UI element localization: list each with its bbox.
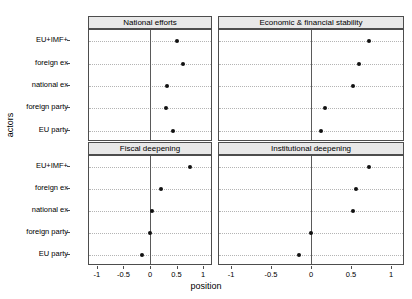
x-tick-mark [123, 266, 124, 269]
x-tick-label: -0.5 [259, 270, 283, 279]
data-point [357, 62, 361, 66]
y-tick-mark [67, 166, 70, 167]
y-tick-label: EU party [2, 250, 68, 258]
y-tick-mark [67, 130, 70, 131]
plot-area [88, 29, 212, 141]
x-tick-label: 1 [191, 270, 215, 279]
y-tick-label: foreign ex [2, 184, 68, 192]
panel-title: Fiscal deepening [120, 144, 180, 153]
x-tick-mark [150, 266, 151, 269]
data-point [175, 39, 179, 43]
x-tick-label: -0.5 [111, 270, 135, 279]
y-tick-label: EU party [2, 126, 68, 134]
data-point [297, 253, 301, 257]
y-tick-label: national ex [2, 81, 68, 89]
data-point [351, 209, 355, 213]
data-point [150, 209, 154, 213]
y-tick-mark [67, 63, 70, 64]
data-point [354, 187, 358, 191]
y-tick-label: EU+IMF+ [2, 36, 68, 44]
x-tick-label: -1 [219, 270, 243, 279]
panel-strip-header: National efforts [88, 16, 212, 29]
y-tick-label: foreign party [2, 228, 68, 236]
x-tick-mark [97, 266, 98, 269]
panel-strip-header: Institutional deepening [218, 142, 404, 155]
data-point [309, 231, 313, 235]
panel-title: Economic & financial stability [259, 18, 362, 27]
x-tick-mark [203, 266, 204, 269]
data-point [188, 165, 192, 169]
x-tick-label: 0.5 [339, 270, 363, 279]
x-tick-label: 0 [299, 270, 323, 279]
y-tick-mark [67, 232, 70, 233]
panel-strip-header: Fiscal deepening [88, 142, 212, 155]
x-tick-label: -1 [85, 270, 109, 279]
y-tick-label: EU+IMF+ [2, 162, 68, 170]
y-tick-mark [67, 40, 70, 41]
y-tick-label: foreign ex [2, 59, 68, 67]
zero-reference-line [311, 156, 312, 264]
y-tick-mark [67, 254, 70, 255]
facet-panel: Institutional deepening [218, 142, 404, 265]
y-tick-mark [67, 107, 70, 108]
plot-area [88, 155, 212, 265]
x-tick-mark [311, 266, 312, 269]
data-point [351, 84, 355, 88]
x-tick-mark [177, 266, 178, 269]
x-tick-mark [391, 266, 392, 269]
x-axis: -1-0.500.51 [88, 266, 212, 284]
zero-reference-line [311, 30, 312, 140]
x-tick-label: 1 [379, 270, 403, 279]
facet-panel: National efforts [88, 16, 212, 141]
facet-panel: Fiscal deepening [88, 142, 212, 265]
plot-area [218, 29, 404, 141]
faceted-dot-plot: actors position EU+IMF+foreign exnationa… [0, 0, 412, 299]
x-tick-label: 0.5 [165, 270, 189, 279]
data-point [159, 187, 163, 191]
data-point [319, 129, 323, 133]
facet-panel: Economic & financial stability [218, 16, 404, 141]
panel-title: Institutional deepening [271, 144, 351, 153]
data-point [148, 231, 152, 235]
panel-title: National efforts [123, 18, 177, 27]
x-tick-mark [231, 266, 232, 269]
x-tick-mark [271, 266, 272, 269]
data-point [140, 253, 144, 257]
plot-area [218, 155, 404, 265]
data-point [367, 165, 371, 169]
x-tick-mark [351, 266, 352, 269]
x-tick-label: 0 [138, 270, 162, 279]
zero-reference-line [150, 30, 151, 140]
data-point [165, 84, 169, 88]
x-axis: -1-0.500.51 [218, 266, 404, 284]
y-tick-mark [67, 85, 70, 86]
y-tick-mark [67, 188, 70, 189]
panel-strip-header: Economic & financial stability [218, 16, 404, 29]
y-tick-mark [67, 210, 70, 211]
y-tick-label: national ex [2, 206, 68, 214]
data-point [367, 39, 371, 43]
y-tick-label: foreign party [2, 103, 68, 111]
